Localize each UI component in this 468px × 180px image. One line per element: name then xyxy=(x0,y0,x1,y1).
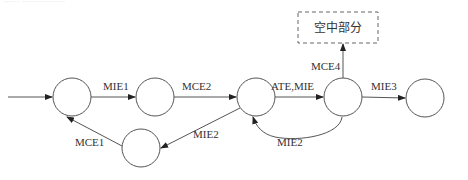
state-6 xyxy=(122,129,160,167)
label-mie2-diag: MIE2 xyxy=(193,128,219,140)
label-mce4: MCE4 xyxy=(311,60,341,72)
label-mie2-loop: MIE2 xyxy=(277,136,303,148)
external-box-label: 空中部分 xyxy=(314,20,362,35)
label-mce1: MCE1 xyxy=(75,136,104,148)
state-3 xyxy=(237,78,275,116)
state-5 xyxy=(406,79,444,117)
state-1 xyxy=(53,78,91,116)
state-2 xyxy=(136,78,174,116)
label-ate-mie: ATE,MIE xyxy=(271,80,314,92)
state-diagram: 空中部分 MIE1 MCE2 ATE,MIE MIE3 MCE4 MIE2 MI… xyxy=(0,0,468,180)
label-mce2: MCE2 xyxy=(182,80,211,92)
edge-s4-s5 xyxy=(362,97,405,98)
label-mie1: MIE1 xyxy=(103,80,129,92)
state-4 xyxy=(324,78,362,116)
label-mie3: MIE3 xyxy=(371,80,397,92)
